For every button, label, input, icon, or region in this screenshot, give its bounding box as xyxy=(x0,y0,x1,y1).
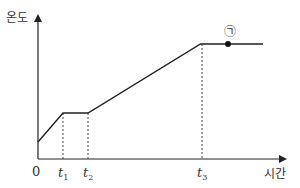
tick-t3: t3 xyxy=(197,165,207,182)
y-axis-label: 온도 xyxy=(6,11,28,25)
point-label: ㉠ xyxy=(224,25,236,39)
temperature-time-chart: ㉠ 온도 시간 0 t1 t2 t3 xyxy=(0,0,300,188)
tick-t1: t1 xyxy=(58,165,68,182)
tick-t2: t2 xyxy=(83,165,93,182)
temperature-curve xyxy=(38,44,263,142)
point-marker xyxy=(225,41,231,47)
origin-label: 0 xyxy=(32,164,40,179)
x-axis-label: 시간 xyxy=(264,167,286,181)
